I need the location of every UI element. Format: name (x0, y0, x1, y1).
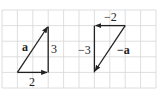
vector-neg-a-label: −a (117, 43, 130, 57)
vector-a-label: a (22, 40, 28, 54)
vector-a-vertical-label: 3 (51, 42, 57, 56)
vector-diagram: a 3 2 −2 −3 −a (0, 0, 160, 95)
vector-neg-a-vertical-label: −3 (78, 43, 91, 57)
vector-a-horizontal-label: 2 (29, 75, 35, 89)
vector-neg-a-horizontal-label: −2 (104, 10, 117, 24)
